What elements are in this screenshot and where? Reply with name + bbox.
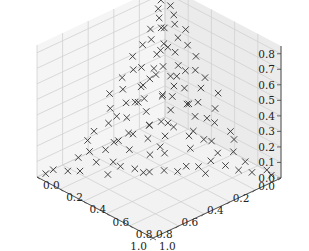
x-tick-label: 1.0 <box>130 240 147 251</box>
z-tick-label: 0.8 <box>258 48 275 60</box>
y-tick-label: 0.4 <box>89 203 106 215</box>
x-tick-label: 0.6 <box>181 216 198 228</box>
y-tick-label: 0.8 <box>136 228 153 240</box>
y-tick-label: 1.0 <box>159 240 176 251</box>
x-tick-label: 0.8 <box>156 228 173 240</box>
z-tick-label: 0.5 <box>258 94 275 106</box>
z-tick-label: 0.7 <box>258 63 275 75</box>
z-tick-label: 0.1 <box>258 156 275 168</box>
x-tick-label: 0.2 <box>233 192 250 204</box>
z-tick-label: 0.3 <box>258 125 275 137</box>
z-tick-label: 0.6 <box>258 79 275 91</box>
z-tick-label: 0.4 <box>258 110 275 122</box>
z-tick-label: 0.0 <box>258 172 275 184</box>
z-tick-label: 0.2 <box>258 141 275 153</box>
y-tick-label: 0.6 <box>113 216 130 228</box>
x-tick-label: 0.4 <box>207 204 224 216</box>
y-tick-label: 0.0 <box>43 179 60 191</box>
scatter-3d-plot: 0.00.20.40.60.81.0 0.00.20.40.60.81.0 0.… <box>0 0 309 251</box>
y-tick-label: 0.2 <box>66 191 83 203</box>
